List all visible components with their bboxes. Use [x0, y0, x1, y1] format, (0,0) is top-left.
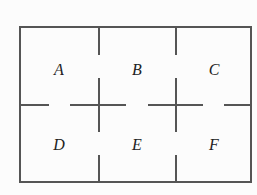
room-label-f: F [208, 136, 219, 153]
room-label-c: C [209, 61, 220, 78]
floor-plan-diagram: A B C D E F [0, 0, 257, 195]
room-label-b: B [132, 61, 142, 78]
room-label-a: A [53, 61, 64, 78]
outer-wall [20, 27, 251, 182]
room-label-d: D [52, 136, 65, 153]
room-label-e: E [131, 136, 142, 153]
